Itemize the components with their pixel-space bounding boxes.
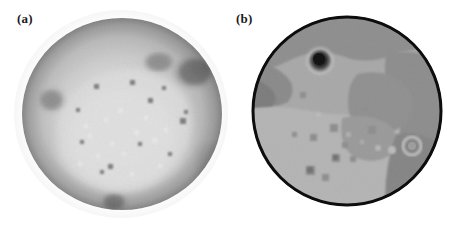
disk-b-segmented-regions <box>246 14 448 208</box>
disk-a-surface-features <box>18 12 226 216</box>
segmented-disk-image-b <box>246 14 448 208</box>
panel-a-disk <box>18 12 226 216</box>
figure-container: (a) <box>0 0 463 229</box>
grayscale-disk-image-a <box>18 12 226 216</box>
panel-b-disk <box>246 14 448 208</box>
panel-a: (a) <box>0 0 232 229</box>
panel-b: (b) <box>232 0 463 229</box>
